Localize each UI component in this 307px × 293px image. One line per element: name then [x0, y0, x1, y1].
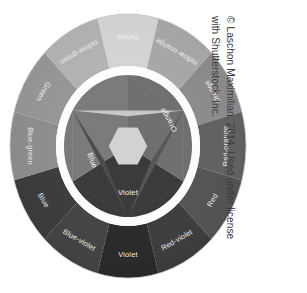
color-wheel-figure: YellowYellow-orangeOrangeRed-orangeRedRe… [0, 0, 307, 293]
vignette-overlay [10, 14, 246, 278]
color-wheel-svg: YellowYellow-orangeOrangeRed-orangeRedRe… [8, 11, 248, 281]
color-wheel-graphic: YellowYellow-orangeOrangeRed-orangeRedRe… [8, 11, 248, 281]
